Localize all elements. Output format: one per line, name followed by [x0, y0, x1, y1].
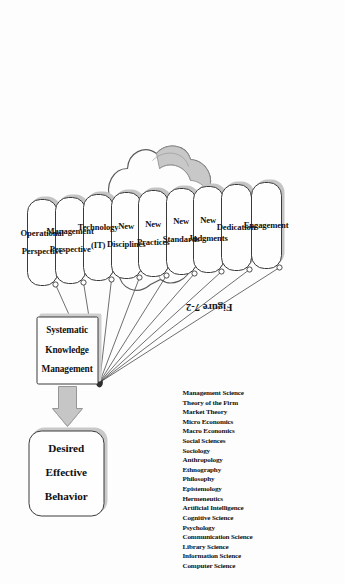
cloud-discipline-item: Ethnography [182, 465, 252, 475]
diagram-stage: Desired Effective Behavior Systematic Kn… [0, 0, 345, 584]
cloud-discipline-item: Management Science [182, 388, 252, 398]
cloud-discipline-item: Hermeneutics [182, 494, 252, 504]
outcome-line-2: Effective [43, 467, 90, 479]
cloud-discipline-item: Anthropology [182, 455, 252, 465]
cloud-discipline-item: Sociology [182, 446, 252, 456]
up-block-arrow-icon [52, 386, 82, 426]
cloud-discipline-item: Computer Science [182, 561, 252, 571]
cloud-discipline-item: Information Science [182, 551, 252, 561]
figure-page: Desired Effective Behavior Systematic Kn… [0, 0, 345, 584]
outcome-box: Desired Effective Behavior [28, 430, 104, 516]
cloud-discipline-item: Library Science [182, 542, 252, 552]
outcome-line-3: Behavior [43, 491, 90, 503]
cloud-discipline-item: Cognitive Science [182, 513, 252, 523]
cloud-discipline-item: Social Sciences [182, 436, 252, 446]
cloud-discipline-item: Market Theory [182, 407, 252, 417]
cloud-discipline-item: Artificial Intelligence [182, 503, 252, 513]
cloud-discipline-item: Theory of the Firm [182, 398, 252, 408]
engine-line-3: Management [39, 365, 94, 375]
fan-node-engagement: Engagement [251, 182, 281, 268]
cloud-discipline-item: Epistemology [182, 484, 252, 494]
cloud-discipline-item: Communication Science [182, 532, 252, 542]
engine-box: Systematic Knowledge Management [36, 316, 98, 384]
outcome-line-1: Desired [43, 443, 90, 455]
figure-caption: Figure 7-2 [185, 301, 232, 312]
engine-line-2: Knowledge [39, 345, 94, 355]
cloud-discipline-item: Macro Economics [182, 426, 252, 436]
engine-line-1: Systematic [39, 325, 94, 335]
cloud-discipline-item: Psychology [182, 523, 252, 533]
fan-label-line: Engagement [242, 220, 291, 229]
cloud-discipline-item: Philosophy [182, 474, 252, 484]
cloud-discipline-list: Management ScienceTheory of the FirmMark… [182, 388, 252, 571]
cloud-discipline-item: Micro Economics [182, 417, 252, 427]
